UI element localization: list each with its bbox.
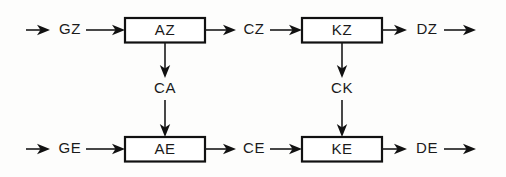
signal-label-dz: DZ [416,20,437,37]
signal-label-de: DE [416,139,438,156]
signal-label-gz: GZ [59,20,81,37]
block-ke-label: KE [331,140,352,157]
block-kz-label: KZ [332,21,352,38]
coupling-label-ca: CA [154,79,176,96]
block-diagram-svg: GZ AZ CZ KZ DZ CA [0,0,506,177]
signal-label-ce: CE [243,139,265,156]
signal-label-cz: CZ [243,20,264,37]
signal-label-ge: GE [59,139,82,156]
block-diagram-canvas: GZ AZ CZ KZ DZ CA [0,0,506,177]
block-ae-label: AE [154,140,175,157]
coupling-label-ck: CK [331,79,353,96]
block-az-label: AZ [155,21,175,38]
